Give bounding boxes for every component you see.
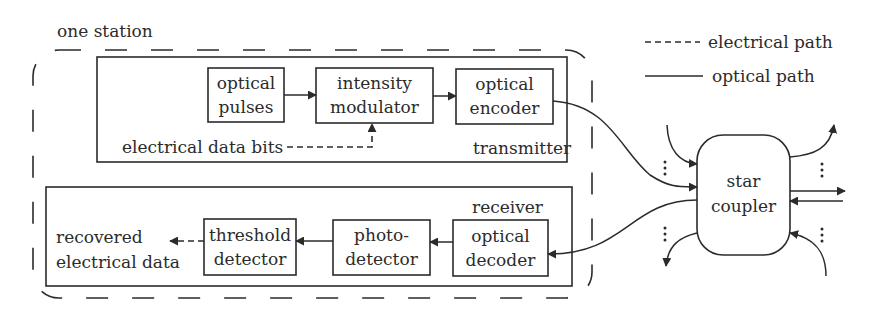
- intensity-modulator-block: intensity modulator: [316, 68, 433, 123]
- svg-text:photo-: photo-: [354, 225, 409, 245]
- svg-text:pulses: pulses: [219, 97, 274, 117]
- optical-encoder-block: optical encoder: [456, 69, 553, 124]
- coupler-output-top-right: [790, 125, 834, 157]
- svg-text:detector: detector: [345, 249, 418, 269]
- svg-text:optical: optical: [471, 226, 529, 246]
- legend-electrical-label: electrical path: [708, 32, 833, 52]
- encoder-to-coupler-path: [553, 101, 697, 187]
- transmitter-label: transmitter: [473, 138, 572, 158]
- svg-text:threshold: threshold: [209, 225, 291, 245]
- svg-text:decoder: decoder: [466, 250, 537, 270]
- svg-text:encoder: encoder: [470, 98, 541, 118]
- station-label: one station: [57, 21, 153, 41]
- transmitter-group: transmitter optical pulses intensity mod…: [97, 57, 572, 162]
- coupler-input-top-left: [667, 125, 697, 164]
- recovered-data-label-1: recovered: [56, 227, 143, 247]
- svg-text:intensity: intensity: [337, 73, 412, 93]
- recovered-data-label-2: electrical data: [56, 252, 180, 272]
- legend: electrical path optical path: [645, 32, 833, 86]
- electrical-data-arrow: [287, 124, 372, 147]
- coupler-output-bottom-left: [666, 233, 697, 266]
- star-coupler: star coupler: [697, 135, 790, 255]
- diagram-svg: one station electrical path optical path…: [0, 0, 874, 313]
- electrical-data-bits-label: electrical data bits: [122, 137, 283, 157]
- svg-text:coupler: coupler: [711, 196, 777, 216]
- coupler-to-decoder-path: [548, 200, 697, 254]
- svg-text:modulator: modulator: [330, 97, 420, 117]
- coupler-input-bottom-right: [790, 233, 826, 276]
- svg-text:detector: detector: [214, 249, 287, 269]
- legend-optical-label: optical path: [712, 66, 815, 86]
- optical-cdma-network-diagram: one station electrical path optical path…: [0, 0, 874, 313]
- photodetector-block: photo- detector: [333, 220, 430, 275]
- svg-text:optical: optical: [217, 73, 275, 93]
- optical-decoder-block: optical decoder: [453, 220, 548, 276]
- receiver-label: receiver: [472, 197, 544, 217]
- svg-text:optical: optical: [475, 74, 533, 94]
- optical-pulses-block: optical pulses: [208, 68, 284, 122]
- receiver-group: receiver threshold detector photo- detec…: [46, 187, 572, 286]
- threshold-detector-block: threshold detector: [204, 219, 296, 275]
- svg-text:star: star: [727, 171, 762, 191]
